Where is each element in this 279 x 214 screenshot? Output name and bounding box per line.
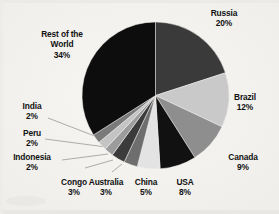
- pie-chart-figure: Russia 20% Brazil 12% Canada 9% USA 8% C…: [0, 0, 279, 214]
- pie-label-peru: Peru 2%: [12, 128, 52, 149]
- pie-label-india-value: 2%: [12, 111, 52, 121]
- pie-label-canada-value: 9%: [212, 162, 274, 172]
- pie-label-usa-name: USA: [166, 177, 204, 187]
- pie-slices: [82, 22, 229, 169]
- pie-label-india-name: India: [12, 101, 52, 111]
- pie-label-brazil-name: Brazil: [216, 92, 274, 102]
- pie-label-usa-value: 8%: [166, 187, 204, 197]
- pie-label-indonesia-name: Indonesia: [2, 152, 62, 162]
- pie-label-russia-name: Russia: [190, 8, 258, 18]
- pie-label-china-value: 5%: [127, 187, 165, 197]
- pie-label-rest-name-line2: World: [23, 39, 101, 49]
- pie-label-indonesia: Indonesia 2%: [2, 152, 62, 173]
- pie-label-russia-value: 20%: [190, 18, 258, 28]
- pie-label-rest-value: 34%: [23, 50, 101, 60]
- pie-label-canada-name: Canada: [212, 152, 274, 162]
- pie-label-peru-name: Peru: [12, 128, 52, 138]
- pie-label-congo-name: Congo: [55, 177, 93, 187]
- pie-label-congo: Congo 3%: [55, 177, 93, 198]
- pie-label-canada: Canada 9%: [212, 152, 274, 173]
- pie-label-indonesia-value: 2%: [2, 162, 62, 172]
- pie-label-india: India 2%: [12, 101, 52, 122]
- pie-label-peru-value: 2%: [12, 138, 52, 148]
- pie-label-china: China 5%: [127, 177, 165, 198]
- pie-label-congo-value: 3%: [55, 187, 93, 197]
- pie-label-russia: Russia 20%: [190, 8, 258, 29]
- pie-label-brazil-value: 12%: [216, 102, 274, 112]
- pie-label-china-name: China: [127, 177, 165, 187]
- pie-label-rest-of-world: Rest of the World 34%: [23, 29, 101, 60]
- pie-label-usa: USA 8%: [166, 177, 204, 198]
- pie-label-brazil: Brazil 12%: [216, 92, 274, 113]
- pie-label-rest-name-line1: Rest of the: [23, 29, 101, 39]
